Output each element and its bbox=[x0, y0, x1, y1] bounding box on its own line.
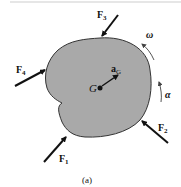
angular-acceleration-label: α bbox=[165, 89, 171, 100]
force-label-f3: F3 bbox=[97, 9, 107, 22]
force-label-f2: F2 bbox=[158, 122, 168, 135]
center-label: G bbox=[89, 82, 97, 94]
force-label-f4: F4 bbox=[16, 64, 26, 77]
center-of-mass-dot bbox=[98, 86, 103, 91]
angular-acceleration-arrow bbox=[159, 82, 161, 102]
angular-velocity-label: ω bbox=[146, 29, 153, 40]
force-label-f1: F1 bbox=[59, 153, 69, 166]
rigid-body-diagram: G aG F3 F4 F1 F2 ω α (a) bbox=[0, 0, 181, 187]
figure-caption: (a) bbox=[82, 175, 92, 185]
